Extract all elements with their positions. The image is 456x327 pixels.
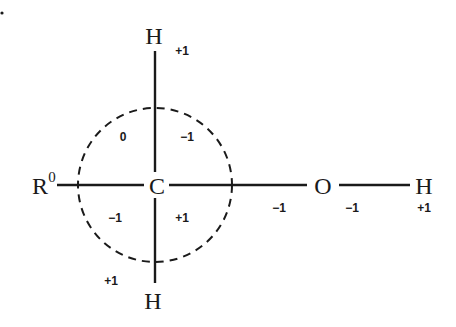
label-h-bottom: +1 <box>104 274 118 288</box>
label-oxygen: −1 <box>345 201 359 215</box>
label-quadrant-upper-right: −1 <box>180 130 194 144</box>
atom-h-top: H <box>145 23 162 49</box>
r-superscript: 0 <box>48 169 56 185</box>
atom-oxygen: O <box>314 173 331 199</box>
label-quadrant-lower-right: +1 <box>175 211 189 225</box>
atom-h-right: H <box>415 173 432 199</box>
label-c-o-bond: −1 <box>272 201 286 215</box>
label-h-top: +1 <box>175 44 189 58</box>
label-quadrant-lower-left: −1 <box>108 211 122 225</box>
label-quadrant-upper-left: 0 <box>120 130 127 144</box>
atom-h-bottom: H <box>144 288 161 314</box>
oxidation-state-diagram: H R 0 C O H H +1 0 −1 −1 +1 +1 −1 −1 +1 <box>0 0 456 327</box>
atom-carbon: C <box>149 173 165 199</box>
stray-dot <box>0 11 3 14</box>
label-h-right: +1 <box>417 201 431 215</box>
atom-r: R <box>32 173 48 199</box>
